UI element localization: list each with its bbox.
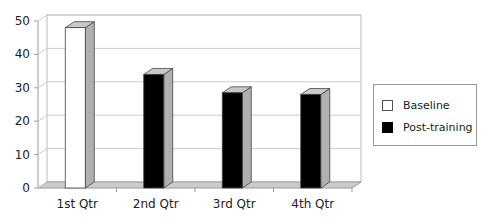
- legend-label: Baseline: [403, 99, 450, 112]
- y-tick-label: 10: [15, 148, 30, 162]
- y-tick-label: 0: [22, 181, 30, 195]
- x-tick-label: 2nd Qtr: [133, 197, 179, 211]
- y-tick-label: 30: [15, 81, 30, 95]
- x-tick-label: 1st Qtr: [57, 197, 99, 211]
- bar-post-training: [144, 68, 173, 188]
- bar-post-training: [222, 87, 251, 188]
- x-tick-label: 4th Qtr: [291, 197, 334, 211]
- legend-swatch-baseline: [382, 100, 393, 111]
- x-tick-label: 3rd Qtr: [213, 197, 256, 211]
- y-tick-label: 40: [15, 47, 30, 61]
- legend-item-baseline: Baseline: [382, 99, 450, 112]
- bar-post-training: [301, 88, 330, 188]
- bar-baseline: [65, 22, 94, 188]
- legend-item-post-training: Post-training: [382, 121, 473, 134]
- chart-legend: Baseline Post-training: [373, 84, 477, 146]
- y-tick-label: 50: [15, 14, 30, 28]
- legend-swatch-post-training: [382, 122, 393, 133]
- legend-label: Post-training: [403, 121, 473, 134]
- y-tick-label: 20: [15, 114, 30, 128]
